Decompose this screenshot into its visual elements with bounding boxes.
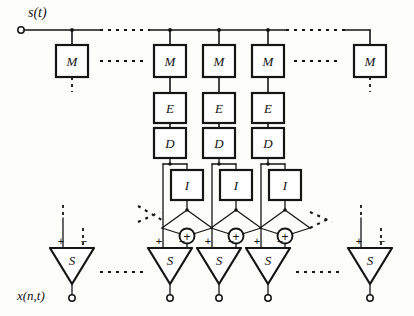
block-label-s: S xyxy=(367,253,374,268)
output-terminal-icon[interactable] xyxy=(367,295,373,301)
i3-to-left-diag xyxy=(260,210,285,228)
block-label-e: E xyxy=(263,101,272,116)
output-terminal-icon[interactable] xyxy=(265,295,271,301)
dashed-stub-left-lower xyxy=(138,212,160,222)
dashed-stub-right-upper xyxy=(310,212,332,222)
junction-dot xyxy=(217,162,221,166)
block-label-s: S xyxy=(69,253,76,268)
row-modulators: M M M M M xyxy=(56,45,386,92)
block-label-i: I xyxy=(184,178,190,193)
i2-to-right-diag xyxy=(236,210,261,228)
i1-to-right-diag xyxy=(187,210,212,228)
row-encoders: E E E xyxy=(154,77,284,123)
summer-minus-sign: − xyxy=(81,235,87,247)
block-label-s: S xyxy=(216,253,223,268)
i2-to-left-diag xyxy=(211,210,236,228)
block-label-m: M xyxy=(164,54,177,69)
output-terminal-icon[interactable] xyxy=(167,295,173,301)
block-label-m: M xyxy=(364,54,377,69)
diagram-svg: .ln{stroke:#151515;stroke-width:1.6;fill… xyxy=(0,0,414,316)
summer-plus-sign: + xyxy=(156,235,162,247)
summer-plus-sign: + xyxy=(205,235,211,247)
output-signal-label: x(n,t) xyxy=(17,288,45,304)
junction-dot xyxy=(217,28,221,32)
junction-dot xyxy=(168,162,172,166)
junction-dot xyxy=(266,162,270,166)
block-label-d: D xyxy=(262,136,273,151)
outer-summer-inputs xyxy=(63,205,381,248)
dashed-stub-left-upper xyxy=(138,206,162,220)
diagram-canvas: .ln{stroke:#151515;stroke-width:1.6;fill… xyxy=(0,0,414,316)
junction-dot xyxy=(168,28,172,32)
block-label-e: E xyxy=(165,101,174,116)
block-label-e: E xyxy=(214,101,223,116)
input-signal-label: s(t) xyxy=(28,5,47,21)
block-label-m: M xyxy=(66,54,79,69)
input-bus xyxy=(18,27,370,45)
summer-minus-sign: − xyxy=(277,235,283,247)
output-terminal-icon[interactable] xyxy=(69,295,75,301)
junction-dot xyxy=(70,28,74,32)
row-summers: S + − S + − S + − S + − xyxy=(50,235,392,301)
block-label-d: D xyxy=(164,136,175,151)
adder-nodes: + + + xyxy=(180,229,293,249)
block-label-i: I xyxy=(233,178,239,193)
summer-minus-sign: − xyxy=(379,235,385,247)
block-label-m: M xyxy=(262,54,275,69)
summer-minus-sign: − xyxy=(179,235,185,247)
block-label-s: S xyxy=(167,253,174,268)
row-interpolators: I I I xyxy=(171,170,301,200)
output-terminal-icon[interactable] xyxy=(216,295,222,301)
summer-minus-sign: − xyxy=(228,235,234,247)
junction-dot xyxy=(266,28,270,32)
i3-to-right-diag xyxy=(285,210,310,228)
row-decoders: D D D xyxy=(154,123,284,158)
summer-plus-sign: + xyxy=(254,235,260,247)
block-label-d: D xyxy=(213,136,224,151)
block-label-s: S xyxy=(265,253,272,268)
summer-plus-sign: + xyxy=(58,235,64,247)
block-label-i: I xyxy=(282,178,288,193)
summer-plus-sign: + xyxy=(356,235,362,247)
block-label-m: M xyxy=(213,54,226,69)
i1-to-left-diag xyxy=(162,210,187,228)
